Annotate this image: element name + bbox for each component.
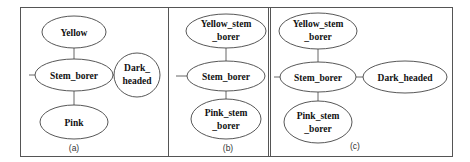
- node-label-line2: _borer: [303, 32, 332, 42]
- node-label: Stem_borer: [202, 72, 251, 82]
- node-label-line1: Pink_stem: [205, 108, 248, 118]
- panel-a: Yellow Stem_borer Dark_ headed Pink (a): [29, 16, 160, 153]
- node-label-line2: headed: [122, 76, 152, 86]
- node-dark-headed: Dark_ headed: [114, 53, 160, 97]
- node-label: Yellow: [61, 28, 88, 38]
- node-yellow: Yellow: [42, 16, 106, 48]
- node-pink-stem-borer: Pink_stem _borer: [284, 101, 352, 143]
- node-label-line1: Yellow_stem: [201, 19, 252, 29]
- node-stem-borer: Stem_borer: [187, 61, 265, 91]
- node-label: Stem_borer: [50, 71, 99, 81]
- panel-caption: (a): [69, 143, 80, 153]
- panel-b: Yellow_stem _borer Stem_borer Pink_stem …: [176, 14, 266, 153]
- node-pink-stem-borer: Pink_stem _borer: [191, 99, 261, 139]
- panel-c: Yellow_stem _borer Stem_borer Dark_heade…: [274, 13, 447, 151]
- stem-borer-diagram: Yellow Stem_borer Dark_ headed Pink (a) …: [0, 0, 470, 162]
- node-label-line1: Pink_stem: [297, 111, 340, 121]
- node-dark-headed: Dark_headed: [363, 61, 447, 93]
- node-pink: Pink: [40, 105, 108, 139]
- node-yellow-stem-borer: Yellow_stem _borer: [279, 13, 357, 49]
- node-label-line1: Yellow_stem: [293, 19, 344, 29]
- node-label: Pink: [64, 118, 84, 128]
- panel-caption: (c): [350, 141, 360, 151]
- node-yellow-stem-borer: Yellow_stem _borer: [186, 14, 266, 48]
- panel-caption: (b): [223, 143, 234, 153]
- node-stem-borer: Stem_borer: [280, 62, 356, 92]
- node-label: Dark_headed: [378, 73, 434, 83]
- node-label-line2: _borer: [211, 32, 240, 42]
- node-stem-borer: Stem_borer: [35, 59, 113, 91]
- node-label-line2: _borer: [303, 124, 332, 134]
- node-label-line2: _borer: [211, 121, 240, 131]
- node-label: Stem_borer: [294, 73, 343, 83]
- node-label-line1: Dark_: [124, 63, 150, 73]
